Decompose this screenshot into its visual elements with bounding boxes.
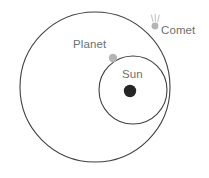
comet-orbit-circle	[20, 12, 170, 162]
comet-tail-icon	[151, 14, 159, 21]
comet-label: Comet	[161, 24, 195, 37]
comet-body-icon	[152, 23, 159, 30]
planet-body-icon	[109, 54, 117, 62]
sun-label: Sun	[122, 68, 143, 81]
planet-label: Planet	[73, 38, 106, 51]
sun-body-icon	[124, 85, 136, 97]
solar-system-diagram: Planet Comet Sun	[0, 0, 209, 178]
